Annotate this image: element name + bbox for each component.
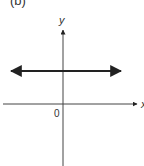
y-axis-label: y	[58, 14, 66, 26]
x-axis-label: x	[140, 98, 144, 110]
origin-label: 0	[54, 108, 60, 119]
panel-label: (b)	[10, 0, 26, 8]
graph-figure: (b) y x 0	[0, 0, 144, 166]
